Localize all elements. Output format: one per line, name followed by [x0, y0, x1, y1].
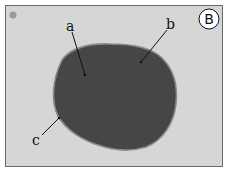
marker-dot: [10, 12, 17, 19]
label-a: a: [66, 18, 74, 34]
panel-label: B: [204, 11, 214, 27]
micrograph-figure: a b c B: [0, 0, 230, 173]
leader-line-c: [42, 118, 59, 135]
label-b: b: [166, 16, 175, 32]
pointer-dot-a: [84, 74, 87, 77]
pointer-dot-c: [58, 117, 61, 120]
pointer-dot-b: [140, 61, 143, 64]
label-c: c: [32, 132, 40, 148]
cell-body: [53, 44, 176, 150]
